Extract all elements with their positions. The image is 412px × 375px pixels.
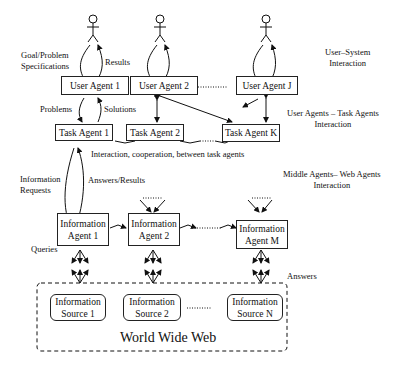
info-agent-1-box: InformationAgent 1 (57, 213, 109, 246)
info-source-label: Information (55, 296, 100, 308)
info-agent-label: Agent M (245, 235, 279, 247)
user-figure-icon (154, 15, 166, 42)
info-source-label: Source 1 (61, 308, 95, 320)
task-agent-1-box: Task Agent 1 (55, 124, 113, 141)
user-system-layer-label: User–SystemInteraction (325, 47, 370, 69)
task-interaction-label: Interaction, cooperation, between task a… (91, 149, 244, 160)
info-source-label: Source 2 (135, 308, 169, 320)
info-source-label: Information (129, 296, 174, 308)
goal-label: Goal/ProblemSpecifications (21, 50, 69, 72)
info-source-1-box: InformationSource 1 (50, 294, 106, 321)
answers-results-label: Answers/Results (88, 175, 145, 186)
www-label: World Wide Web (120, 330, 216, 346)
answers-label: Answers (287, 271, 317, 282)
info-source-2-box: InformationSource 2 (123, 294, 181, 321)
info-agent-label: Information (131, 218, 176, 230)
info-source-label: Source N (237, 308, 273, 320)
info-agent-label: Agent 1 (68, 230, 98, 242)
task-agent-k-box: Task Agent K (222, 124, 280, 142)
problems-label: Problems (40, 104, 72, 115)
user-agent-2-box: User Agent 2 (130, 76, 198, 95)
results-label: Results (105, 57, 130, 68)
info-agent-label: Information (239, 223, 284, 235)
info-agent-m-box: InformationAgent M (236, 220, 288, 249)
info-agent-label: Information (60, 218, 105, 230)
info-source-n-box: InformationSource N (227, 294, 283, 321)
info-source-label: Information (232, 296, 277, 308)
user-task-layer-label: User Agents – Task AgentsInteraction (287, 108, 379, 130)
info-agent-2-box: InformationAgent 2 (128, 213, 180, 246)
solutions-label: Solutions (104, 104, 136, 115)
user-agent-j-box: User Agent J (236, 76, 298, 95)
user-agent-1-box: User Agent 1 (61, 76, 129, 95)
middle-web-layer-label: Middle Agents– Web AgentsInteraction (283, 169, 381, 191)
user-figure-icon (260, 15, 272, 42)
info-requests-label: InformationRequests (20, 174, 61, 196)
info-agent-label: Agent 2 (139, 230, 169, 242)
user-figure-icon (87, 15, 99, 42)
task-agent-2-box: Task Agent 2 (126, 124, 184, 141)
queries-label: Queries (31, 244, 57, 255)
